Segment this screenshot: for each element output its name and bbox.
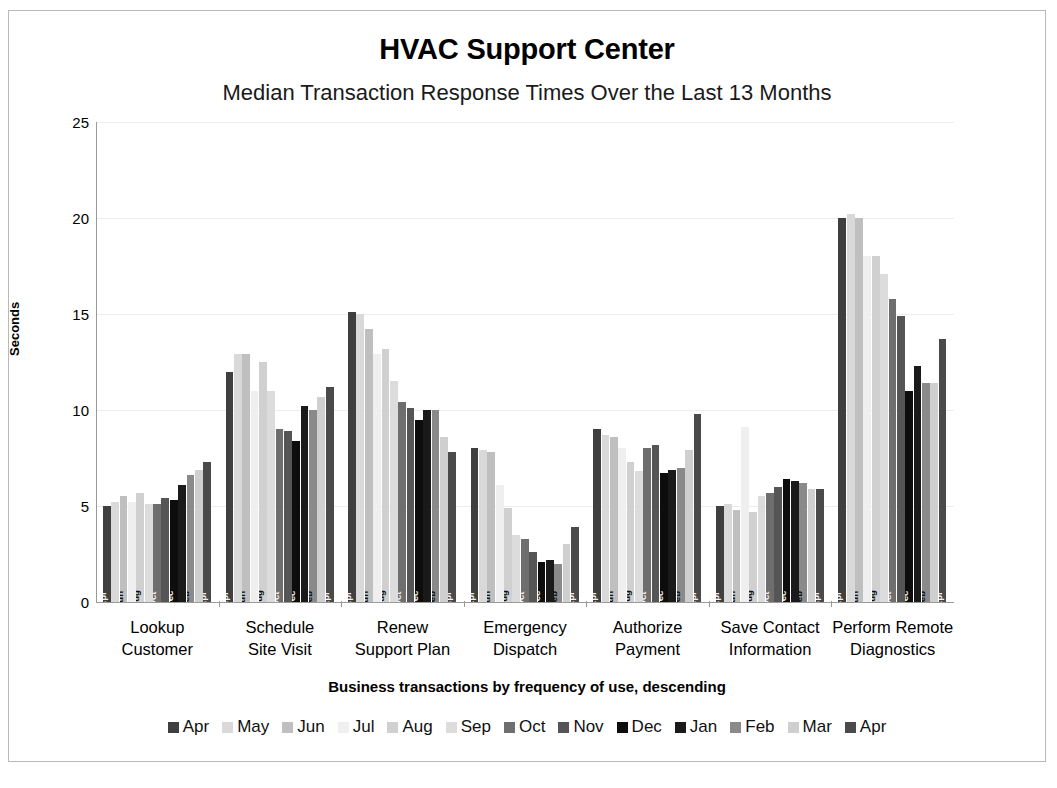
bar[interactable]: Aug: [382, 349, 390, 602]
legend-item[interactable]: Jun: [282, 717, 324, 737]
bar[interactable]: [145, 504, 153, 602]
bar[interactable]: [267, 391, 275, 602]
bar[interactable]: Oct: [643, 448, 651, 602]
legend-item[interactable]: Apr: [168, 717, 209, 737]
bar[interactable]: [407, 408, 415, 602]
bar[interactable]: Feb: [922, 383, 930, 602]
bar[interactable]: [668, 470, 676, 602]
bar[interactable]: [128, 502, 136, 602]
legend-item[interactable]: Aug: [387, 717, 432, 737]
bar[interactable]: Apr: [326, 387, 334, 602]
bar[interactable]: Aug: [136, 493, 144, 602]
bar[interactable]: [195, 470, 203, 602]
legend-item[interactable]: Jul: [338, 717, 375, 737]
bar[interactable]: Apr: [203, 462, 211, 602]
bar[interactable]: [301, 406, 309, 602]
bar[interactable]: Oct: [153, 504, 161, 602]
bar[interactable]: Jun: [855, 218, 863, 602]
bar[interactable]: [930, 383, 938, 602]
legend-item[interactable]: Jan: [675, 717, 717, 737]
bar[interactable]: [317, 397, 325, 602]
bar[interactable]: Jun: [365, 329, 373, 602]
bar[interactable]: Apr: [716, 506, 724, 602]
bar[interactable]: Apr: [939, 339, 947, 602]
bar[interactable]: Dec: [415, 420, 423, 602]
bar[interactable]: Apr: [471, 448, 479, 602]
bar[interactable]: Apr: [448, 452, 456, 602]
bar[interactable]: Apr: [816, 489, 824, 602]
bar[interactable]: [897, 316, 905, 602]
bar[interactable]: Feb: [677, 468, 685, 602]
bar[interactable]: [758, 496, 766, 602]
bar[interactable]: Apr: [694, 414, 702, 602]
bar[interactable]: [863, 256, 871, 602]
bar[interactable]: Feb: [187, 475, 195, 602]
bar[interactable]: [808, 489, 816, 602]
bar[interactable]: Aug: [504, 508, 512, 602]
bar[interactable]: [440, 437, 448, 602]
bar[interactable]: Apr: [571, 527, 579, 602]
legend-item[interactable]: May: [222, 717, 269, 737]
bar[interactable]: [512, 535, 520, 602]
bar[interactable]: [390, 381, 398, 602]
bar[interactable]: Dec: [538, 562, 546, 602]
bar[interactable]: [791, 481, 799, 602]
bar[interactable]: Aug: [259, 362, 267, 602]
bar[interactable]: Dec: [660, 473, 668, 602]
bar[interactable]: Apr: [226, 372, 234, 602]
bar[interactable]: Apr: [103, 506, 111, 602]
bar[interactable]: Oct: [521, 539, 529, 602]
bar[interactable]: [479, 450, 487, 602]
bar[interactable]: [847, 214, 855, 602]
bar[interactable]: Jun: [610, 437, 618, 602]
bar[interactable]: Oct: [398, 402, 406, 602]
legend-item[interactable]: Feb: [730, 717, 774, 737]
bar[interactable]: Feb: [432, 410, 440, 602]
bar[interactable]: [111, 502, 119, 602]
bar[interactable]: [251, 391, 259, 602]
bar[interactable]: [914, 366, 922, 602]
bar[interactable]: [685, 450, 693, 602]
bar[interactable]: Jun: [733, 510, 741, 602]
bar[interactable]: Aug: [872, 256, 880, 602]
bar[interactable]: Dec: [292, 441, 300, 602]
bar[interactable]: Dec: [783, 479, 791, 602]
bar[interactable]: Apr: [593, 429, 601, 602]
legend-item[interactable]: Mar: [788, 717, 832, 737]
bar[interactable]: [602, 435, 610, 602]
bar[interactable]: [423, 410, 431, 602]
bar[interactable]: Aug: [627, 462, 635, 602]
bar[interactable]: [529, 552, 537, 602]
bar[interactable]: Oct: [276, 429, 284, 602]
bar[interactable]: Apr: [838, 218, 846, 602]
legend-item[interactable]: Sep: [446, 717, 491, 737]
bar[interactable]: [635, 471, 643, 602]
bar[interactable]: Dec: [905, 391, 913, 602]
bar[interactable]: [178, 485, 186, 602]
bar[interactable]: Jun: [487, 452, 495, 602]
bar[interactable]: Aug: [749, 512, 757, 602]
bar[interactable]: [741, 427, 749, 602]
bar[interactable]: [546, 560, 554, 602]
legend-item[interactable]: Apr: [845, 717, 886, 737]
bar[interactable]: [652, 445, 660, 602]
bar[interactable]: Jun: [120, 496, 128, 602]
bar[interactable]: [618, 448, 626, 602]
bar[interactable]: [373, 354, 381, 602]
legend-item[interactable]: Dec: [617, 717, 662, 737]
bar[interactable]: Feb: [799, 483, 807, 602]
bar[interactable]: [774, 487, 782, 602]
bar[interactable]: Feb: [309, 410, 317, 602]
bar[interactable]: Apr: [348, 312, 356, 602]
bar[interactable]: Oct: [889, 299, 897, 602]
legend-item[interactable]: Oct: [504, 717, 545, 737]
bar[interactable]: [161, 498, 169, 602]
bar[interactable]: Oct: [766, 493, 774, 602]
bar[interactable]: [234, 354, 242, 602]
bar[interactable]: [724, 504, 732, 602]
bar[interactable]: [563, 544, 571, 602]
bar[interactable]: [284, 431, 292, 602]
legend-item[interactable]: Nov: [558, 717, 603, 737]
bar[interactable]: Dec: [170, 500, 178, 602]
bar[interactable]: Jun: [242, 354, 250, 602]
